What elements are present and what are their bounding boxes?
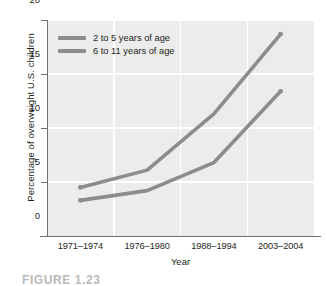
series-line [80,34,280,187]
series-endpoint-marker [278,89,283,94]
y-tick-label: 5 [14,156,40,167]
y-tick-mark [41,128,47,129]
y-axis-line [47,20,48,237]
x-axis-line [40,236,321,237]
legend-swatch [58,36,86,40]
legend-item: 2 to 5 years of age [58,33,175,43]
series-endpoint-marker [78,198,83,203]
y-tick-mark [41,236,47,237]
y-tick-mark [41,182,47,183]
series-line [80,91,280,200]
figure-container: Percentage of overweight U.S. children 0… [0,0,327,286]
legend-item: 6 to 11 years of age [58,46,175,56]
x-tick-label: 2003–2004 [236,241,326,251]
y-tick-mark [41,20,47,21]
series-endpoint-marker [78,185,83,190]
y-tick-label: 20 [14,0,40,5]
legend-label: 2 to 5 years of age [93,33,170,43]
y-tick-label: 15 [14,48,40,59]
x-axis-title: Year [47,256,314,267]
y-tick-mark [41,74,47,75]
legend-swatch [58,49,86,53]
legend-label: 6 to 11 years of age [93,46,175,56]
legend: 2 to 5 years of age6 to 11 years of age [58,33,175,56]
y-axis-ticks: 05101520 [10,0,40,216]
y-tick-label: 10 [14,102,40,113]
figure-caption: FIGURE 1.23 [22,273,101,286]
series-endpoint-marker [278,32,283,37]
y-tick-label: 0 [14,210,40,221]
